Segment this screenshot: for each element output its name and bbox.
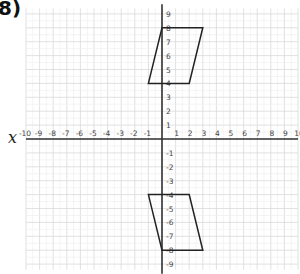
- y-tick-label: 6: [166, 52, 171, 61]
- y-tick-label: -2: [166, 163, 174, 172]
- x-tick-label: 2: [188, 129, 193, 138]
- y-tick-label: -3: [166, 177, 174, 186]
- x-tick-label: -4: [103, 129, 111, 138]
- x-tick-label: 8: [269, 129, 274, 138]
- x-tick-label: -8: [48, 129, 56, 138]
- y-tick-label: -5: [166, 205, 174, 214]
- x-tick-label: 9: [283, 129, 288, 138]
- y-tick-label: 3: [166, 93, 171, 102]
- x-tick-label: 3: [201, 129, 206, 138]
- x-tick-label: 10: [294, 129, 300, 138]
- x-tick-label: -9: [35, 129, 43, 138]
- y-tick-label: -6: [166, 218, 174, 227]
- x-tick-label: -6: [76, 129, 84, 138]
- x-tick-label: 1: [174, 129, 179, 138]
- x-tick-label: -10: [19, 129, 31, 138]
- x-tick-label: -5: [89, 129, 97, 138]
- y-tick-label: -9: [166, 260, 174, 269]
- x-tick-label: -2: [130, 129, 138, 138]
- x-tick-label: 7: [256, 129, 261, 138]
- x-tick-label: -3: [116, 129, 124, 138]
- x-tick-label: 6: [242, 129, 247, 138]
- coordinate-plane: -10-9-8-7-6-5-4-3-2-11234567891098765432…: [0, 0, 300, 274]
- x-tick-label: 5: [229, 129, 234, 138]
- y-tick-label: 2: [166, 107, 171, 116]
- y-tick-label: -7: [166, 232, 174, 241]
- y-tick-label: 5: [166, 66, 171, 75]
- x-tick-label: -1: [144, 129, 152, 138]
- coordinate-grid-figure: 8) x -10-9-8-7-6-5-4-3-2-112345678910987…: [0, 0, 300, 274]
- y-tick-label: 7: [166, 38, 171, 47]
- x-tick-label: 4: [215, 129, 220, 138]
- y-tick-label: 1: [166, 121, 171, 130]
- x-tick-label: -7: [62, 129, 70, 138]
- y-tick-label: 9: [166, 10, 171, 19]
- y-tick-label: -1: [166, 149, 174, 158]
